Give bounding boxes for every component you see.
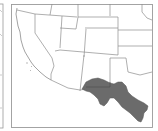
right-map-panel bbox=[12, 4, 153, 128]
map-canvas bbox=[0, 0, 158, 131]
left-map-panel bbox=[0, 4, 3, 128]
map-figure bbox=[0, 0, 158, 131]
